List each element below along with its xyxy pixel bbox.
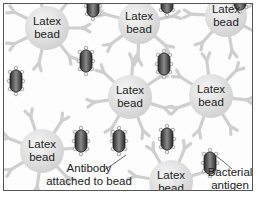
bead-label: Latexbead: [105, 84, 155, 110]
antibody-arm: [193, 130, 199, 135]
bacterial-antigen: [7, 66, 25, 96]
antibody-stem: [61, 4, 70, 11]
antibody-stem: [61, 45, 70, 56]
antibody-arm: [247, 100, 252, 105]
antibody-arm: [32, 187, 37, 190]
antibody-arm: [34, 63, 39, 69]
bacterial-antigen: [110, 126, 128, 156]
antibody-arm: [169, 107, 177, 108]
antibody-stem: [39, 4, 42, 7]
antibody-arm: [230, 126, 231, 134]
diagram-frame: LatexbeadLatexbeadLatexbeadLatexbeadLate…: [3, 3, 253, 191]
antibody-stem: [179, 149, 184, 162]
antibody-stem: [39, 49, 42, 63]
bacterial-antigen: [77, 46, 95, 76]
bead-label: Latexbead: [201, 3, 251, 29]
bead-label: Latexbead: [146, 169, 196, 191]
antibody-stem: [207, 60, 209, 74]
antibody-arm: [103, 44, 111, 45]
bacterial-antigen: [158, 124, 176, 154]
bead-label: Latexbead: [17, 138, 67, 164]
antibody-arm: [173, 16, 181, 18]
antibody-stem: [153, 151, 160, 163]
antibody-stem: [37, 173, 39, 187]
antibody-arm: [207, 53, 210, 60]
antibody-arm: [236, 68, 244, 70]
bead-label: Latexbead: [114, 10, 164, 36]
bacterial-antigen: [72, 126, 90, 156]
antibody-annotation-line1: Antibody: [44, 162, 134, 175]
antibody-annotation: Antibody attached to bead: [44, 162, 134, 188]
antibody-stem: [54, 121, 62, 133]
antibody-stem: [203, 32, 212, 42]
bacterial-antigen: [84, 4, 102, 21]
antibody-arm: [229, 50, 232, 58]
bead-label: Latexbead: [22, 15, 72, 41]
antibody-stem: [111, 36, 122, 44]
antibody-stem: [155, 37, 166, 46]
antibody-arm: [87, 99, 94, 102]
antibody-arm: [31, 109, 32, 117]
antibody-arm: [69, 56, 70, 64]
antibody-stem: [31, 117, 35, 130]
bead-label: Latexbead: [186, 83, 236, 109]
antigen-annotation: Bacterial antigen: [202, 166, 253, 191]
antigen-annotation-line2: antigen: [202, 179, 253, 191]
antibody-stem: [223, 115, 231, 127]
bacterial-antigen: [155, 49, 173, 79]
antibody-stem: [199, 117, 204, 130]
antibody-stem: [104, 72, 114, 82]
antibody-stem: [132, 61, 133, 75]
antibody-annotation-line2: attached to bead: [44, 175, 134, 188]
antibody-arm: [142, 131, 143, 139]
antibody-stem: [230, 37, 232, 51]
antigen-annotation-line1: Bacterial: [202, 166, 253, 179]
antibody-arm: [83, 28, 90, 32]
antibody-arm: [164, 108, 170, 114]
antibody-stem: [138, 118, 143, 131]
antibody-stem: [226, 70, 236, 80]
antibody-arm: [184, 10, 191, 14]
